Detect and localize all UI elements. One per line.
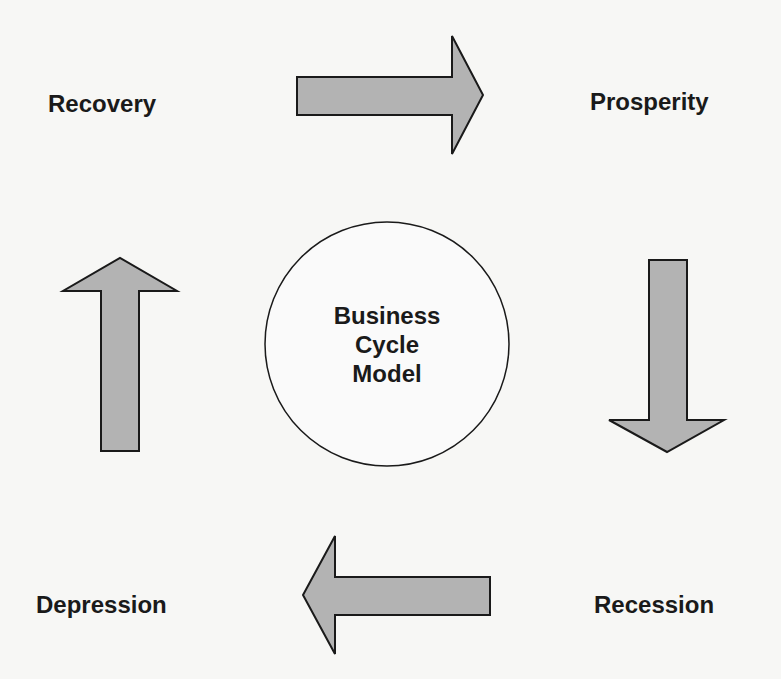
center-title: Business Cycle Model	[264, 221, 510, 467]
arrow-down-icon	[609, 260, 724, 452]
phase-prosperity: Prosperity	[590, 88, 709, 116]
arrow-up-icon	[63, 258, 177, 451]
arrow-left-icon	[303, 536, 490, 654]
phase-recovery: Recovery	[48, 90, 156, 118]
center-line-3: Model	[352, 359, 421, 388]
arrow-right-icon	[297, 36, 483, 154]
center-line-2: Cycle	[355, 330, 419, 359]
phase-depression: Depression	[36, 591, 167, 619]
center-line-1: Business	[334, 301, 441, 330]
phase-recession: Recession	[594, 591, 714, 619]
